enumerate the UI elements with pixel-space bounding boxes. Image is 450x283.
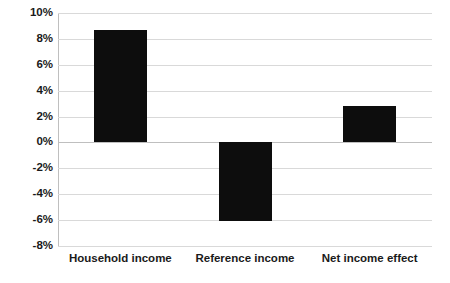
bar [219,142,272,221]
y-axis-tick-label: 0% [5,137,53,149]
plot-area [58,13,432,246]
x-axis-category-labels: Household incomeReference incomeNet inco… [58,252,432,274]
y-axis-tick-label: -6% [5,214,53,226]
y-axis-tick-label: 8% [5,33,53,45]
bar [94,30,147,143]
x-axis-category-label: Household income [58,252,183,266]
y-axis-tick-label: 6% [5,59,53,71]
y-axis-tick-label: -4% [5,188,53,200]
x-axis-category-label: Reference income [183,252,308,266]
x-axis-category-label: Net income effect [307,252,432,266]
y-axis-tick-label: -8% [5,240,53,252]
gridline [58,246,432,247]
y-axis-tick-label: -2% [5,163,53,175]
gridline [58,13,432,14]
bar-chart: 10%8%6%4%2%0%-2%-4%-6%-8% Household inco… [0,0,450,283]
bar [343,106,396,142]
y-axis-tick-labels: 10%8%6%4%2%0%-2%-4%-6%-8% [0,13,53,246]
y-axis-tick-label: 10% [5,7,53,19]
y-axis-tick-label: 2% [5,111,53,123]
y-axis-tick-label: 4% [5,85,53,97]
